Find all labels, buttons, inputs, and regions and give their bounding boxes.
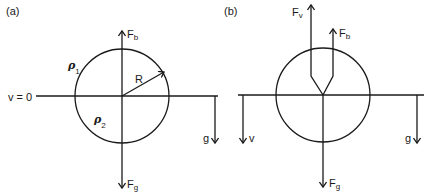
panel-b-label: (b) <box>224 5 237 17</box>
density-upper-label: ρ1 <box>67 59 80 76</box>
velocity-zero-label: v = 0 <box>8 91 32 103</box>
buoyancy-force-label-a: Fb <box>127 28 139 42</box>
panel-a-label: (a) <box>6 5 19 17</box>
buoyancy-force-diagram: (a) v = 0 Fb Fg R ρ1 ρ2 g (b) Fv Fb Fg v… <box>0 0 428 195</box>
gravity-label-b: g <box>405 132 411 144</box>
gravity-force-label-a: Fg <box>127 178 138 192</box>
gravity-label-a: g <box>203 132 209 144</box>
buoyancy-force-label-b: Fb <box>339 27 351 41</box>
radius-label: R <box>135 73 143 85</box>
gravity-force-label-b: Fg <box>329 177 340 191</box>
buoyancy-arrow-b <box>323 29 333 95</box>
panel-a: (a) v = 0 Fb Fg R ρ1 ρ2 g <box>6 5 218 192</box>
radius-arrow <box>122 72 164 96</box>
viscous-force-arrow <box>311 5 323 95</box>
viscous-force-label: Fv <box>292 6 303 20</box>
density-lower-label: ρ2 <box>93 113 106 130</box>
velocity-label: v <box>249 132 255 144</box>
panel-b: (b) Fv Fb Fg v g <box>224 5 424 191</box>
